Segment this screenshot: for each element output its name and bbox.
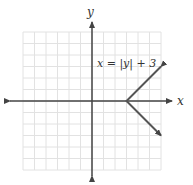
x-axis-label: x bbox=[177, 94, 184, 108]
graph: x y x = |y| + 3 bbox=[0, 0, 193, 185]
equation-label: x = |y| + 3 bbox=[97, 57, 156, 71]
y-axis-label: y bbox=[86, 5, 94, 19]
